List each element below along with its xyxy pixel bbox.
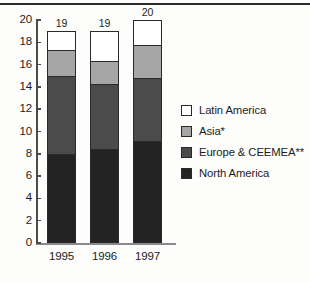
y-axis-tick-label: 18 bbox=[0, 36, 32, 48]
x-axis-tick-label: 1997 bbox=[126, 250, 170, 262]
y-axis-tick-label: 12 bbox=[0, 103, 32, 115]
bar-segment bbox=[91, 84, 118, 149]
x-axis-line bbox=[36, 243, 176, 245]
y-axis-tick bbox=[36, 198, 41, 200]
y-axis-tick-label: 6 bbox=[0, 170, 32, 182]
bar-segment bbox=[134, 141, 161, 242]
bar-1997 bbox=[133, 20, 162, 243]
legend-item-label: North America bbox=[199, 167, 269, 179]
y-axis-tick bbox=[36, 131, 41, 133]
bar-segment bbox=[48, 32, 75, 50]
bar-segment bbox=[48, 76, 75, 153]
bar-segment bbox=[134, 45, 161, 78]
bar-segment bbox=[91, 32, 118, 61]
bar-total-label: 20 bbox=[128, 7, 168, 18]
legend-item-label: Asia* bbox=[199, 125, 225, 137]
y-axis-tick bbox=[36, 64, 41, 66]
y-axis-tick bbox=[36, 175, 41, 177]
y-axis-tick bbox=[36, 153, 41, 155]
bar-total-label: 19 bbox=[42, 18, 82, 29]
y-axis-tick bbox=[36, 19, 41, 21]
bar-segment bbox=[134, 78, 161, 141]
top-divider-rule bbox=[0, 3, 310, 5]
y-axis-tick-label: 8 bbox=[0, 148, 32, 160]
chart-legend: Latin AmericaAsia*Europe & CEEMEA**North… bbox=[181, 101, 307, 185]
bar-total-label: 19 bbox=[85, 18, 125, 29]
legend-item: Europe & CEEMEA** bbox=[181, 143, 307, 161]
legend-swatch-icon bbox=[181, 147, 192, 158]
bar-1996 bbox=[90, 31, 119, 243]
y-axis-tick-label: 20 bbox=[0, 14, 32, 26]
legend-swatch-icon bbox=[181, 105, 192, 116]
legend-item: North America bbox=[181, 164, 307, 182]
bar-1995 bbox=[47, 31, 76, 243]
y-axis-tick-label: 0 bbox=[0, 237, 32, 249]
legend-item: Asia* bbox=[181, 122, 307, 140]
y-axis-tick-label: 2 bbox=[0, 215, 32, 227]
y-axis-tick bbox=[36, 42, 41, 44]
y-axis-tick bbox=[36, 242, 41, 244]
bar-segment bbox=[134, 21, 161, 45]
y-axis-tick bbox=[36, 108, 41, 110]
y-axis-tick bbox=[36, 86, 41, 88]
legend-swatch-icon bbox=[181, 168, 192, 179]
y-axis-tick-label: 16 bbox=[0, 59, 32, 71]
legend-item-label: Latin America bbox=[199, 104, 266, 116]
y-axis-tick-label: 10 bbox=[0, 126, 32, 138]
y-axis-tick-label: 14 bbox=[0, 81, 32, 93]
bar-segment bbox=[48, 154, 75, 242]
y-axis-tick-label: 4 bbox=[0, 192, 32, 204]
y-axis-tick bbox=[36, 220, 41, 222]
bar-segment bbox=[91, 61, 118, 84]
x-axis-tick-label: 1996 bbox=[83, 250, 127, 262]
legend-item: Latin America bbox=[181, 101, 307, 119]
chart-figure: 20181614121086420 199519961997 191920 La… bbox=[0, 0, 310, 282]
x-axis-tick-label: 1995 bbox=[40, 250, 84, 262]
legend-item-label: Europe & CEEMEA** bbox=[199, 146, 304, 158]
bar-segment bbox=[48, 50, 75, 77]
bar-segment bbox=[91, 149, 118, 242]
legend-swatch-icon bbox=[181, 126, 192, 137]
